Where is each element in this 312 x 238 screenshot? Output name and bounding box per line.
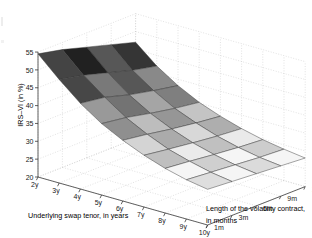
svg-text:4y: 4y [73,193,81,201]
y-axis-title: IRS–VI (in %) [9,67,27,143]
svg-text:9y: 9y [179,223,187,231]
svg-text:7y: 7y [137,211,145,219]
svg-text:25: 25 [26,156,34,163]
x-axis-title: Underlying swap tenor, in years [28,204,128,222]
x-axis-title-text: Underlying swap tenor, in years [28,211,128,220]
z-axis-title-text: Length of the volatility contract, in mo… [206,204,305,225]
svg-text:2y: 2y [31,181,39,189]
svg-text:55: 55 [26,49,34,56]
surface-mesh [38,42,305,189]
svg-text:3y: 3y [52,187,60,195]
svg-text:20: 20 [26,174,34,181]
svg-text:10y: 10y [199,229,211,237]
y-axis-title-text: IRS–VI (in %) [16,83,25,127]
svg-text:8y: 8y [158,217,166,225]
svg-text:1m: 1m [214,224,224,231]
z-axis-title: Length of the volatility contract, in mo… [206,201,310,225]
figure-panel: 20253035404550552y3y4y5y6y7y8y9y10y1m3m6… [0,0,312,238]
